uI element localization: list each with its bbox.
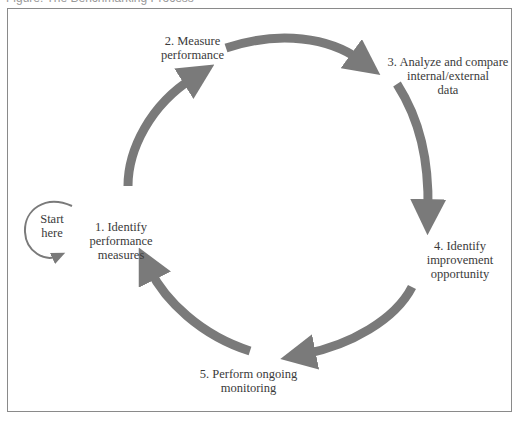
step-4-label: 4. Identify improvement opportunity [410, 239, 510, 281]
step-2-label: 2. Measure performance [140, 34, 245, 62]
step-1-label: 1. Identify performance measures [66, 220, 176, 262]
arrow-step1-to-step2 [128, 78, 193, 186]
step-3-label: 3. Analyze and compare internal/external… [378, 55, 517, 97]
arrow-step5-to-step1 [150, 270, 250, 351]
arrow-step4-to-step5 [305, 287, 412, 354]
arrow-step3-to-step4 [397, 84, 428, 210]
arrow-step2-to-step3 [226, 38, 360, 60]
step-5-label: 5. Perform ongoing monitoring [186, 367, 311, 395]
